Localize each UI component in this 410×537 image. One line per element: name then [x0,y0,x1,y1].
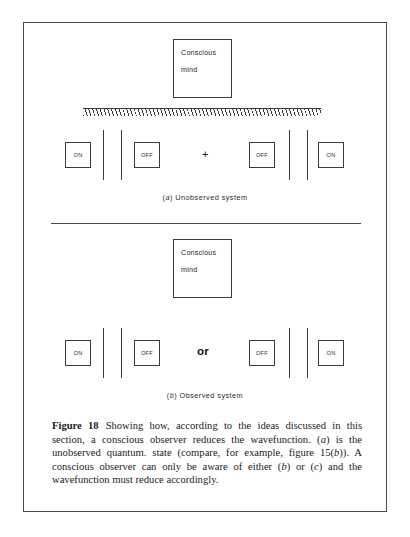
state-box-a-1: ON [65,142,91,168]
panel-unobserved-system: Conscious mind ON OFF OFF ON + (a) Unobs… [24,23,386,223]
ket-bar-left-inner-b [121,328,122,378]
bra-bar-right-inner-a [289,130,290,180]
conscious-mind-line2-b: mind [181,266,231,274]
conscious-mind-line1-a: Conscious [181,48,216,57]
sub-caption-b-suffix: ) Observed system [174,391,243,400]
state-box-b-1: ON [65,340,91,366]
hatched-barrier [83,108,321,117]
panel-observed-system: Conscious mind ON OFF OFF ON or (b) Obse… [24,224,386,413]
sub-caption-a: (a) Unobserved system [24,193,386,202]
state-box-b-3: OFF [249,340,275,366]
bra-bar-right-outer-a [307,130,308,180]
state-box-b-4: ON [318,340,344,366]
conscious-mind-box-b: Conscious mind [173,239,232,298]
figure-caption: Figure 18Showing how, according to the i… [52,419,362,487]
ket-bar-left-outer-a [103,130,104,180]
conscious-mind-line2-a: mind [181,66,231,74]
conscious-mind-box-a: Conscious mind [173,39,232,98]
ket-bar-left-inner-a [121,130,122,180]
sub-caption-a-suffix: ) Unobserved system [170,193,248,202]
state-box-a-2: OFF [134,142,160,168]
barrier-hatching [83,109,321,116]
figure-frame: Conscious mind ON OFF OFF ON + (a) Unobs… [23,22,387,512]
figure-number-label: Figure 18 [52,420,99,431]
ket-bar-left-outer-b [103,328,104,378]
operator-or: or [197,346,209,358]
caption-part-4: ) or ( [287,461,314,472]
bra-bar-right-outer-b [307,328,308,378]
state-box-a-4: ON [318,142,344,168]
bra-bar-right-inner-b [289,328,290,378]
sub-caption-b: (b) Observed system [24,391,386,400]
state-box-a-3: OFF [249,142,275,168]
state-box-b-2: OFF [134,340,160,366]
operator-plus: + [202,149,208,160]
conscious-mind-line1-b: Conscious [181,248,216,257]
